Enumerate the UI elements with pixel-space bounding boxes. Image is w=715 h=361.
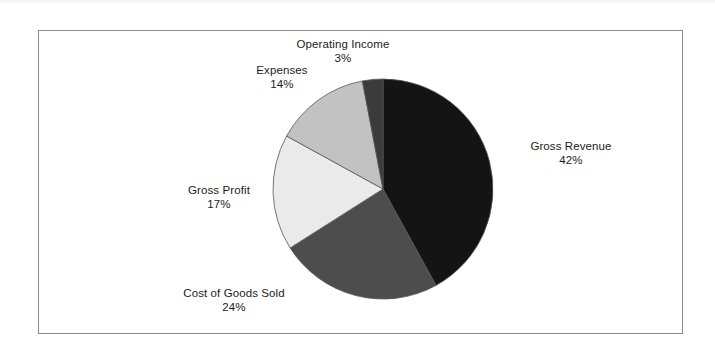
chart-frame: Gross Revenue 42% Cost of Goods Sold 24%… bbox=[38, 30, 683, 334]
slice-label-value: 17% bbox=[149, 197, 289, 211]
slice-label-name: Expenses bbox=[217, 63, 347, 77]
slice-label-name: Gross Revenue bbox=[491, 139, 651, 153]
slice-label-gross-profit: Gross Profit 17% bbox=[149, 183, 289, 211]
slice-label-name: Cost of Goods Sold bbox=[139, 286, 329, 300]
slice-label-gross-revenue: Gross Revenue 42% bbox=[491, 139, 651, 167]
slice-label-value: 24% bbox=[139, 300, 329, 314]
slice-label-value: 42% bbox=[491, 153, 651, 167]
slice-label-operating-income: Operating Income 3% bbox=[263, 37, 423, 65]
slice-label-cost-of-goods-sold: Cost of Goods Sold 24% bbox=[139, 286, 329, 314]
slice-label-name: Gross Profit bbox=[149, 183, 289, 197]
slice-label-value: 3% bbox=[263, 51, 423, 65]
pie-slice-group bbox=[273, 79, 493, 299]
slice-label-name: Operating Income bbox=[263, 37, 423, 51]
pie-chart-plot-area: Gross Revenue 42% Cost of Goods Sold 24%… bbox=[39, 31, 684, 335]
pie-chart-svg bbox=[39, 31, 684, 335]
slice-label-value: 14% bbox=[217, 77, 347, 91]
slice-label-expenses: Expenses 14% bbox=[217, 63, 347, 91]
scan-edge-artifact bbox=[0, 0, 715, 4]
